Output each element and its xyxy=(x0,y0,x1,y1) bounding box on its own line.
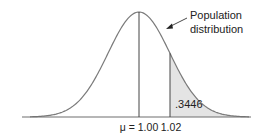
annotation-line-2: distribution xyxy=(190,23,243,35)
tick-label-1-02: 1.02 xyxy=(161,121,182,133)
normal-distribution-figure: .3446 μ = 1.00 1.02 Population distribut… xyxy=(0,0,268,138)
annotation-line-1: Population xyxy=(190,9,242,21)
tail-area-label: .3446 xyxy=(175,98,203,110)
annotation-arrowhead-icon xyxy=(166,24,173,30)
tick-label-mean: μ = 1.00 xyxy=(120,121,159,133)
